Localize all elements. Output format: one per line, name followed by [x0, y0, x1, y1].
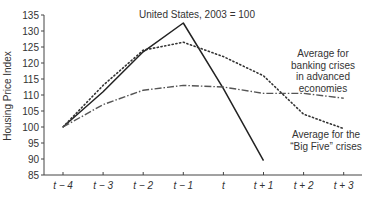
series-solid-line — [63, 23, 264, 161]
chart-canvas: 859095100105110115120125130135t − 4t − 3… — [0, 0, 372, 198]
us-series-annotation: United States, 2003 = 100 — [139, 9, 255, 20]
y-tick-label: 85 — [28, 170, 40, 181]
y-tick-label: 90 — [28, 154, 40, 165]
annotation-line: banking crises — [291, 60, 355, 71]
x-tick-label: t − 3 — [93, 180, 113, 191]
x-tick-label: t + 3 — [334, 180, 354, 191]
annotation-line: “Big Five” crises — [290, 141, 362, 152]
annotation-line: Average for the — [292, 129, 361, 140]
big-five-annotation: Average for the“Big Five” crises — [290, 129, 362, 152]
annotation-line: economies — [299, 83, 347, 94]
annotation-line: Average for — [297, 48, 349, 59]
x-tick-label: t + 2 — [294, 180, 314, 191]
y-tick-label: 130 — [22, 26, 39, 37]
y-tick-label: 110 — [23, 90, 39, 101]
y-tick-label: 120 — [22, 58, 39, 69]
housing-price-chart: 859095100105110115120125130135t − 4t − 3… — [0, 0, 372, 198]
x-tick-label: t − 4 — [53, 180, 73, 191]
x-tick-label: t − 1 — [173, 180, 193, 191]
x-tick-label: t + 1 — [254, 180, 274, 191]
y-axis-label: Housing Price Index — [2, 51, 13, 141]
x-tick-label: t − 2 — [133, 180, 153, 191]
y-tick-label: 125 — [22, 42, 39, 53]
y-tick-label: 135 — [22, 10, 39, 21]
y-tick-label: 105 — [22, 106, 39, 117]
annotation-line: in advanced — [296, 71, 350, 82]
y-tick-label: 115 — [23, 74, 39, 85]
y-tick-label: 95 — [28, 138, 40, 149]
x-tick-label: t — [222, 180, 226, 191]
y-tick-label: 100 — [22, 122, 39, 133]
advanced-economies-annotation: Average forbanking crisesin advancedecon… — [291, 48, 355, 94]
